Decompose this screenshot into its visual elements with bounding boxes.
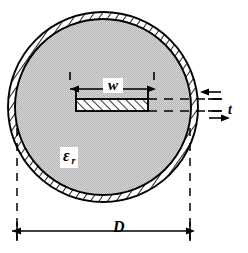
- width-label: w: [103, 78, 123, 93]
- dimension-t: [208, 92, 222, 118]
- permittivity-label: εr: [60, 147, 78, 168]
- cross-section-figure: [0, 0, 248, 253]
- dimension-D: [17, 222, 190, 240]
- diameter-label: D: [113, 219, 125, 235]
- thickness-label: t: [228, 103, 232, 117]
- permittivity-epsilon: ε: [63, 147, 70, 164]
- permittivity-subscript: r: [72, 155, 76, 166]
